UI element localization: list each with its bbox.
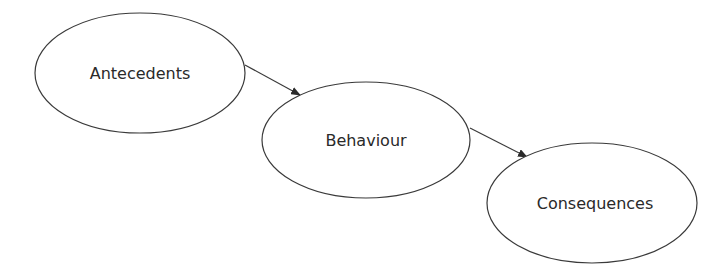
edge-behaviour-to-consequences [470, 128, 527, 157]
diagram-svg: Antecedents Behaviour Consequences [0, 0, 726, 279]
node-antecedents: Antecedents [35, 13, 245, 133]
node-label-antecedents: Antecedents [90, 64, 191, 83]
node-behaviour: Behaviour [262, 82, 470, 198]
node-label-behaviour: Behaviour [325, 131, 407, 150]
abc-model-diagram: Antecedents Behaviour Consequences [0, 0, 726, 279]
edge-antecedents-to-behaviour [245, 65, 300, 95]
node-label-consequences: Consequences [537, 194, 654, 213]
node-consequences: Consequences [487, 143, 697, 263]
